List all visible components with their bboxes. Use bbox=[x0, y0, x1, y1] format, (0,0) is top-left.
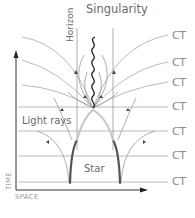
ct-label-4: CT bbox=[172, 101, 185, 112]
ct-slice-1 bbox=[22, 35, 168, 108]
ct-slice-3 bbox=[22, 82, 168, 108]
ct-label-6: CT bbox=[172, 150, 185, 161]
ct-label-7: CT bbox=[172, 176, 185, 187]
horizon-label: Horizon bbox=[66, 8, 75, 42]
black-hole-diagram bbox=[0, 0, 195, 218]
singularity-label: Singularity bbox=[86, 4, 148, 16]
horizon-lines bbox=[77, 28, 113, 150]
constant-time-slices bbox=[18, 35, 168, 182]
space-axis-arrow-icon bbox=[140, 188, 148, 193]
ct-slice-2 bbox=[22, 60, 168, 108]
light-rays-label: Light rays bbox=[22, 116, 72, 126]
singularity-line bbox=[92, 37, 95, 108]
ct-label-5: CT bbox=[172, 126, 185, 137]
space-axis-label: SPACE bbox=[15, 194, 39, 201]
time-axis-label: TIME bbox=[6, 172, 13, 190]
ct-label-1: CT bbox=[172, 30, 185, 41]
star-label: Star bbox=[84, 164, 105, 174]
ct-label-2: CT bbox=[172, 57, 185, 68]
light-rays-inner bbox=[68, 55, 118, 108]
ct-label-3: CT bbox=[172, 77, 185, 88]
time-axis-arrow-icon bbox=[14, 50, 19, 58]
